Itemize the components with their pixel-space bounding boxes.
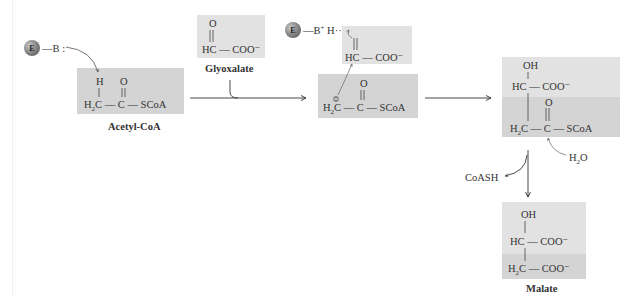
reaction-arrows	[0, 0, 621, 296]
